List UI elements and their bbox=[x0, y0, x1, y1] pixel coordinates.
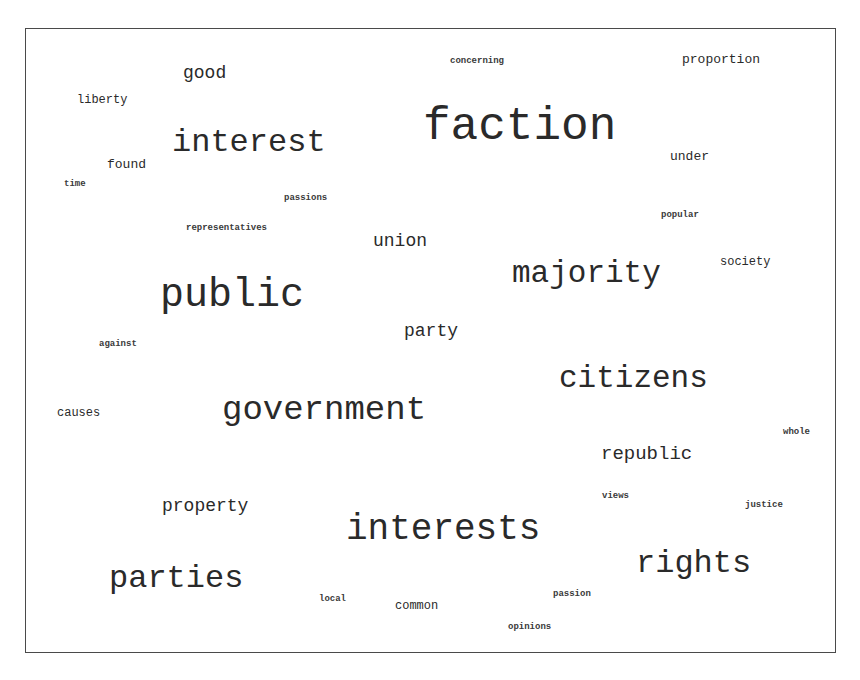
word-public: public bbox=[160, 276, 304, 316]
word-popular: popular bbox=[661, 211, 699, 220]
word-majority: majority bbox=[512, 258, 661, 289]
word-common: common bbox=[395, 600, 438, 612]
word-time: time bbox=[64, 180, 86, 189]
word-society: society bbox=[720, 256, 770, 268]
word-parties: parties bbox=[109, 563, 243, 595]
word-rights: rights bbox=[636, 548, 751, 580]
word-passions: passions bbox=[284, 194, 327, 203]
word-proportion: proportion bbox=[682, 53, 760, 66]
word-found: found bbox=[107, 158, 146, 171]
word-local: local bbox=[319, 595, 346, 604]
word-whole: whole bbox=[783, 428, 810, 437]
word-faction: faction bbox=[423, 104, 616, 150]
word-property: property bbox=[162, 497, 248, 515]
word-liberty: liberty bbox=[77, 94, 127, 106]
word-interest: interest bbox=[172, 127, 326, 159]
word-justice: justice bbox=[745, 501, 783, 510]
word-against: against bbox=[99, 340, 137, 349]
word-causes: causes bbox=[57, 407, 100, 419]
word-opinions: opinions bbox=[508, 623, 551, 632]
word-citizens: citizens bbox=[559, 363, 708, 394]
word-concerning: concerning bbox=[450, 57, 504, 66]
word-union: union bbox=[373, 232, 427, 250]
word-passion: passion bbox=[553, 590, 591, 599]
word-government: government bbox=[222, 393, 426, 427]
word-under: under bbox=[670, 150, 709, 163]
word-views: views bbox=[602, 492, 629, 501]
word-party: party bbox=[404, 322, 458, 340]
word-interests: interests bbox=[346, 512, 540, 548]
word-good: good bbox=[183, 64, 226, 82]
word-representatives: representatives bbox=[186, 224, 267, 233]
word-republic: republic bbox=[601, 445, 692, 464]
